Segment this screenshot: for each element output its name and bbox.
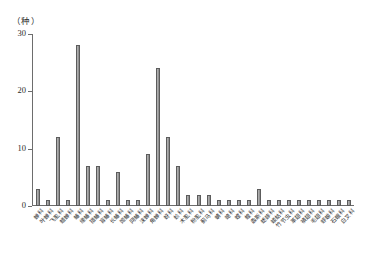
bar [46, 200, 50, 206]
bar [287, 200, 291, 206]
bar-slot [183, 34, 193, 206]
bar-slot [63, 34, 73, 206]
bar-slot [33, 34, 43, 206]
bar [166, 137, 170, 206]
x-axis-tick-labels: 蝉科叶蝉科飞虱科蜡蝉科蝽科缘蝽科猎蝽科盲蝽科长蝽科姬蝽科网蝽科沫蝉科角蝉科蚜科蚧… [32, 207, 354, 263]
bar-slot [83, 34, 93, 206]
y-axis-tick-label: 0 [22, 200, 26, 210]
bar-series [33, 34, 354, 206]
bar-slot [173, 34, 183, 206]
bar-slot [194, 34, 204, 206]
bar [227, 200, 231, 206]
bar [116, 172, 120, 206]
bar [86, 166, 90, 206]
bar-slot [73, 34, 83, 206]
bar-chart: （种） 0102030 蝉科叶蝉科飞虱科蜡蝉科蝽科缘蝽科猎蝽科盲蝽科长蝽科姬蝽科… [0, 0, 368, 264]
bar-slot [324, 34, 334, 206]
plot-area: 0102030 [32, 34, 354, 206]
bar-slot [234, 34, 244, 206]
bar [337, 200, 341, 206]
bar-slot [93, 34, 103, 206]
bar [197, 195, 201, 206]
bar [307, 200, 311, 206]
bar [317, 200, 321, 206]
bar-slot [53, 34, 63, 206]
bar-slot [224, 34, 234, 206]
bar-slot [274, 34, 284, 206]
bar [257, 189, 261, 206]
bar-slot [113, 34, 123, 206]
bar-slot [143, 34, 153, 206]
bar-slot [133, 34, 143, 206]
bar [237, 200, 241, 206]
bar [347, 200, 351, 206]
bar-slot [214, 34, 224, 206]
bar [297, 200, 301, 206]
bar [146, 154, 150, 206]
y-axis-tick-label: 30 [18, 28, 27, 38]
bar-slot [123, 34, 133, 206]
bar-slot [153, 34, 163, 206]
y-axis-tick-mark [28, 91, 32, 92]
bar [186, 195, 190, 206]
bar [106, 200, 110, 206]
bar [136, 200, 140, 206]
bar [176, 166, 180, 206]
bar-slot [103, 34, 113, 206]
bar [56, 137, 60, 206]
bar-slot [163, 34, 173, 206]
bar-slot [294, 34, 304, 206]
bar-slot [264, 34, 274, 206]
bar-slot [254, 34, 264, 206]
bar-slot [344, 34, 354, 206]
bar [277, 200, 281, 206]
bar [96, 166, 100, 206]
y-axis-tick-label: 10 [18, 143, 27, 153]
bar-slot [244, 34, 254, 206]
bar [247, 200, 251, 206]
bar [217, 200, 221, 206]
bar [36, 189, 40, 206]
bar [126, 200, 130, 206]
bar-slot [204, 34, 214, 206]
bar [267, 200, 271, 206]
bar-slot [43, 34, 53, 206]
bar-slot [284, 34, 294, 206]
y-axis-tick-mark [28, 34, 32, 35]
bar [156, 68, 160, 206]
y-axis-unit-label: （种） [12, 14, 40, 26]
y-axis-tick-mark [28, 149, 32, 150]
bar [66, 200, 70, 206]
bar-slot [304, 34, 314, 206]
bar [207, 195, 211, 206]
bar [327, 200, 331, 206]
y-axis-tick-label: 20 [18, 85, 27, 95]
bar-slot [334, 34, 344, 206]
bar-slot [314, 34, 324, 206]
bar [76, 45, 80, 206]
